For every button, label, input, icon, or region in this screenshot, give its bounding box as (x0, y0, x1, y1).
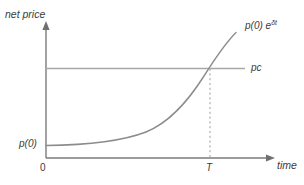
time-T-label: T (206, 163, 212, 173)
x-axis-arrowhead (266, 154, 275, 161)
curve-equation-exponent: δt (271, 19, 277, 26)
y-axis (42, 21, 49, 158)
net-price-curve (46, 33, 236, 146)
choke-price-label: pc (251, 63, 262, 73)
x-axis (46, 154, 275, 161)
y-axis-label: net price (5, 9, 45, 20)
net-price-diagram: net price time p(0) eδt pc p(0) 0 T (0, 0, 304, 185)
origin-label: 0 (40, 163, 46, 173)
curve-equation-label: p(0) eδt (245, 21, 277, 31)
curve-equation-base: p(0) e (245, 20, 271, 31)
x-axis-label: time (277, 160, 297, 171)
y-axis-arrowhead (42, 21, 49, 30)
initial-price-label: p(0) (19, 139, 37, 149)
